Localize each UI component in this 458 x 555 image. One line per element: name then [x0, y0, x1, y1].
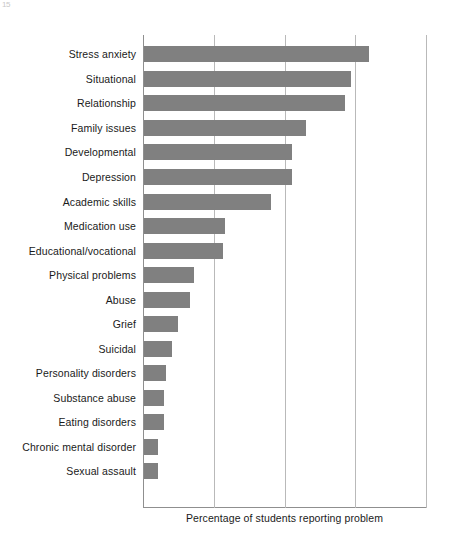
bar-row: Family issues [143, 116, 426, 141]
bar-row: Suicidal [143, 337, 426, 362]
category-label: Academic skills [63, 194, 136, 210]
category-label: Chronic mental disorder [22, 439, 136, 455]
bar [144, 414, 164, 430]
bar-row: Abuse [143, 288, 426, 313]
horizontal-bar-chart: Stress anxietySituationalRelationshipFam… [0, 0, 458, 555]
bar [144, 365, 166, 381]
bar [144, 267, 194, 283]
category-label: Sexual assault [66, 463, 136, 479]
bar-row: Substance abuse [143, 386, 426, 411]
plot-area: Stress anxietySituationalRelationshipFam… [143, 35, 426, 508]
gridline-4 [426, 35, 427, 508]
bar-row: Situational [143, 67, 426, 92]
category-label: Relationship [77, 95, 136, 111]
bar-row: Grief [143, 312, 426, 337]
bar [144, 316, 178, 332]
category-label: Family issues [71, 120, 136, 136]
category-label: Abuse [106, 292, 136, 308]
category-label: Substance abuse [53, 390, 136, 406]
category-label: Educational/vocational [29, 243, 136, 259]
bar [144, 390, 164, 406]
bar [144, 194, 271, 210]
bar-row: Relationship [143, 91, 426, 116]
bar [144, 243, 223, 259]
bar-row: Stress anxiety [143, 42, 426, 67]
category-label: Depression [82, 169, 136, 185]
bar [144, 120, 306, 136]
bar-row: Academic skills [143, 190, 426, 215]
category-label: Eating disorders [59, 414, 136, 430]
category-label: Stress anxiety [69, 46, 136, 62]
category-label: Situational [86, 71, 136, 87]
bar [144, 144, 292, 160]
bar [144, 292, 190, 308]
bar [144, 169, 292, 185]
category-label: Personality disorders [36, 365, 136, 381]
bar [144, 218, 225, 234]
bar [144, 71, 351, 87]
category-label: Suicidal [98, 341, 136, 357]
bar-row: Educational/vocational [143, 239, 426, 264]
bar-row: Physical problems [143, 263, 426, 288]
bar-row: Eating disorders [143, 410, 426, 435]
x-axis-title: Percentage of students reporting problem [143, 512, 426, 524]
bar-row: Medication use [143, 214, 426, 239]
bar-row: Personality disorders [143, 361, 426, 386]
bar-row: Depression [143, 165, 426, 190]
bar-rows-group: Stress anxietySituationalRelationshipFam… [143, 35, 426, 508]
category-label: Developmental [65, 144, 136, 160]
bar [144, 439, 158, 455]
bar [144, 46, 369, 62]
bar [144, 95, 345, 111]
category-label: Medication use [64, 218, 136, 234]
bar-row: Sexual assault [143, 459, 426, 484]
bar [144, 341, 172, 357]
category-label: Physical problems [49, 267, 136, 283]
bar-row: Developmental [143, 140, 426, 165]
category-label: Grief [113, 316, 136, 332]
bar-row: Chronic mental disorder [143, 435, 426, 460]
bar [144, 463, 158, 479]
